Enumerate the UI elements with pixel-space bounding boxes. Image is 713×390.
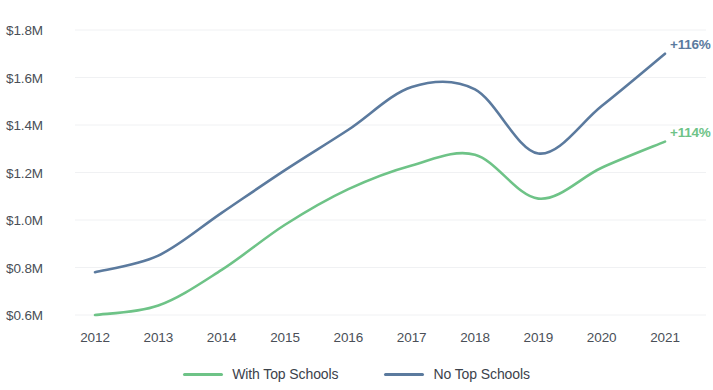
line-chart: $1.8M$1.6M$1.4M$1.2M$1.0M$0.8M$0.6M 2012…	[0, 0, 713, 390]
x-tick-label: 2012	[80, 330, 110, 345]
x-tick-label: 2018	[460, 330, 490, 345]
legend-item[interactable]: No Top Schools	[384, 366, 529, 382]
y-tick-label: $1.4M	[6, 118, 43, 133]
legend-label: No Top Schools	[433, 366, 529, 382]
x-tick-label: 2021	[650, 330, 680, 345]
x-tick-label: 2020	[587, 330, 617, 345]
legend-swatch	[384, 373, 424, 376]
y-tick-label: $1.6M	[6, 70, 43, 85]
series-line-no-top-schools	[95, 54, 665, 273]
x-tick-label: 2019	[524, 330, 554, 345]
x-tick-label: 2017	[397, 330, 427, 345]
y-tick-label: $1.0M	[6, 213, 43, 228]
legend-label: With Top Schools	[232, 366, 338, 382]
annotation-no-top-schools: +116%	[670, 36, 711, 51]
legend-swatch	[183, 373, 223, 376]
y-tick-label: $1.2M	[6, 165, 43, 180]
x-tick-label: 2014	[207, 330, 237, 345]
y-tick-label: $0.6M	[6, 308, 43, 323]
legend-item[interactable]: With Top Schools	[183, 366, 338, 382]
y-tick-label: $0.8M	[6, 260, 43, 275]
annotation-with-top-schools: +114%	[670, 124, 711, 139]
legend: With Top SchoolsNo Top Schools	[0, 366, 713, 382]
series-line-with-top-schools	[95, 142, 665, 315]
x-tick-label: 2015	[270, 330, 300, 345]
x-tick-label: 2016	[334, 330, 364, 345]
series-lines	[95, 54, 665, 315]
y-tick-label: $1.8M	[6, 23, 43, 38]
x-tick-label: 2013	[144, 330, 174, 345]
